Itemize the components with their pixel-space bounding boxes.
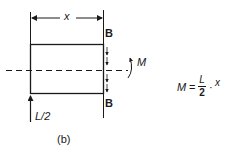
moment-label: M: [137, 56, 146, 68]
equation-lhs: M: [177, 81, 186, 93]
equation-fraction: L 2: [198, 75, 206, 98]
equation-variable: x: [215, 77, 220, 88]
equation-equals: =: [189, 81, 195, 93]
beam-segment: [31, 45, 104, 94]
equation-dot: ·: [209, 81, 213, 93]
moment-arrow: [128, 58, 132, 78]
fraction-numerator: L: [199, 75, 205, 85]
dimension-label-x: x: [64, 10, 70, 22]
moment-equation: M = L 2 · x: [177, 76, 232, 100]
section-label-bottom: B: [105, 97, 113, 109]
figure-caption: (b): [57, 133, 70, 145]
fraction-denominator: 2: [199, 88, 205, 98]
reaction-label: L/2: [35, 110, 50, 122]
section-label-top: B: [105, 27, 113, 39]
